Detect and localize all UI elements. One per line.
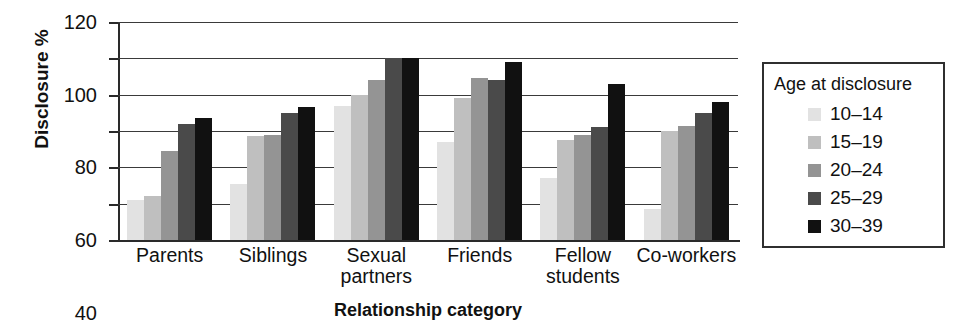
x-axis-tick-label: Siblings [221, 245, 324, 287]
bar [351, 95, 368, 240]
bar-group [118, 22, 221, 240]
x-axis-tick-label: Sexual partners [325, 245, 428, 287]
legend-item[interactable]: 30–39 [764, 213, 943, 239]
bar [540, 178, 557, 240]
legend: Age at disclosure 10–1415–1920–2425–2930… [762, 62, 945, 248]
y-axis-tick-label: 60 [75, 230, 97, 250]
bar [574, 135, 591, 240]
x-axis-tick-label: Co-workers [635, 245, 738, 287]
bar [247, 136, 264, 240]
bar-group [325, 22, 428, 240]
legend-item-label: 15–19 [830, 131, 883, 153]
bar-groups [118, 22, 738, 240]
bar [178, 124, 195, 240]
bar [230, 184, 247, 240]
bar-group [428, 22, 531, 240]
bar [437, 142, 454, 240]
bar [454, 98, 471, 240]
y-axis-tick-label: 40 [75, 303, 97, 323]
bar-group [531, 22, 634, 240]
chart-root: Disclosure % 120100806040200 ParentsSibl… [0, 0, 970, 326]
legend-title: Age at disclosure [764, 74, 943, 95]
bar [127, 200, 144, 240]
bar [608, 84, 625, 240]
legend-swatch-icon [808, 220, 821, 233]
bar [591, 127, 608, 240]
legend-items: 10–1415–1920–2425–2930–39 [764, 101, 943, 239]
bar [334, 106, 351, 240]
plot-area: 120100806040200 [118, 22, 738, 240]
y-axis-tick: 120 [109, 22, 118, 24]
bar-group [635, 22, 738, 240]
bar [161, 151, 178, 240]
y-axis-tick-label: 100 [64, 85, 97, 105]
legend-item[interactable]: 25–29 [764, 185, 943, 211]
bar [644, 209, 661, 240]
x-axis-tick-labels: ParentsSiblingsSexual partnersFriendsFel… [118, 245, 738, 287]
bar [298, 107, 315, 240]
bar [505, 62, 522, 240]
legend-item[interactable]: 15–19 [764, 129, 943, 155]
bar [661, 131, 678, 240]
x-axis-tick-label: Fellow students [531, 245, 634, 287]
y-axis-tick: 0 [109, 240, 118, 242]
legend-item[interactable]: 20–24 [764, 157, 943, 183]
legend-item-label: 25–29 [830, 187, 883, 209]
y-axis-tick: 80 [109, 95, 118, 97]
y-axis-tick: 100 [109, 58, 118, 60]
y-axis-tick: 40 [109, 167, 118, 169]
bar [195, 118, 212, 240]
bar [264, 135, 281, 240]
y-axis-tick: 60 [109, 131, 118, 133]
legend-item-label: 20–24 [830, 159, 883, 181]
bar [368, 80, 385, 240]
gridline [118, 240, 738, 241]
bar [385, 58, 402, 240]
y-axis-tick-label: 80 [75, 157, 97, 177]
bar [557, 140, 574, 240]
legend-item-label: 10–14 [830, 103, 883, 125]
legend-item-label: 30–39 [830, 215, 883, 237]
bar [144, 196, 161, 240]
legend-swatch-icon [808, 136, 821, 149]
x-axis-tick-label: Friends [428, 245, 531, 287]
y-axis-tick: 20 [109, 204, 118, 206]
bar [488, 80, 505, 240]
x-axis-tick-label: Parents [118, 245, 221, 287]
x-axis-title: Relationship category [118, 300, 738, 321]
y-axis-title: Disclosure % [31, 0, 53, 179]
bar [712, 102, 729, 240]
y-axis-tick-label: 120 [64, 12, 97, 32]
bar [281, 113, 298, 240]
bar [678, 126, 695, 240]
legend-swatch-icon [808, 192, 821, 205]
bar-group [221, 22, 324, 240]
bar [695, 113, 712, 240]
bar [471, 78, 488, 240]
legend-swatch-icon [808, 164, 821, 177]
legend-item[interactable]: 10–14 [764, 101, 943, 127]
legend-swatch-icon [808, 108, 821, 121]
bar [402, 58, 419, 240]
